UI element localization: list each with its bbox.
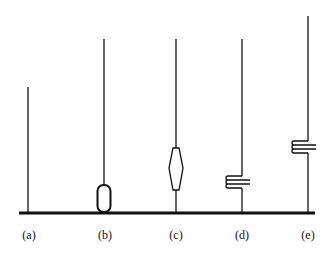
label-a: (a) — [22, 228, 35, 243]
diagram-drawing — [0, 0, 333, 256]
antenna-d — [226, 39, 250, 213]
label-e: (e) — [301, 228, 314, 243]
hexagon-element-icon — [169, 148, 183, 190]
label-c: (c) — [169, 228, 182, 243]
antenna-c — [169, 39, 183, 213]
antenna-e — [292, 16, 316, 213]
antenna-diagram: (a) (b) (c) (d) (e) — [0, 0, 333, 256]
base-capsule-icon — [98, 185, 111, 212]
label-b: (b) — [98, 228, 112, 243]
loading-coil-icon — [226, 176, 250, 188]
antenna-b — [98, 39, 111, 212]
label-d: (d) — [235, 228, 249, 243]
loading-coil-icon — [292, 141, 316, 153]
